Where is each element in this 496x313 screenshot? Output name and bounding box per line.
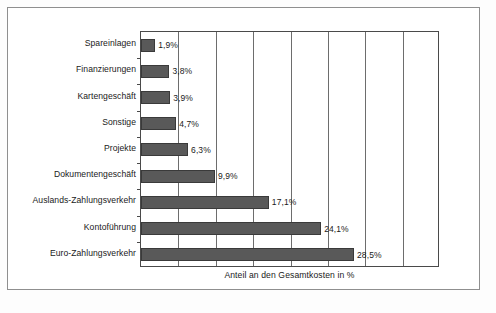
bar-row: 6,3% (141, 137, 438, 163)
bar-value-label: 28,5% (357, 250, 382, 260)
bar (141, 39, 155, 52)
bar-row: 3,9% (141, 84, 438, 110)
x-axis-title: Anteil an den Gesamtkosten in % (140, 270, 439, 280)
category-label: Finanzierungen (4, 64, 136, 74)
bar (141, 143, 188, 156)
bar-value-label: 3,8% (172, 66, 192, 76)
bar-row: 4,7% (141, 111, 438, 137)
category-label: Projekte (4, 143, 136, 153)
bar (141, 65, 169, 78)
bar (141, 91, 170, 104)
bar-value-label: 3,9% (173, 93, 193, 103)
plot-area: 1,9%3,8%3,9%4,7%6,3%9,9%17,1%24,1%28,5% (140, 31, 439, 267)
category-label: Sonstige (4, 117, 136, 127)
category-axis-labels: SpareinlagenFinanzierungenKartengeschäft… (0, 31, 136, 267)
bar-row: 9,9% (141, 163, 438, 189)
bar-row: 17,1% (141, 189, 438, 215)
bar (141, 248, 354, 261)
bar (141, 117, 176, 130)
category-label: Euro-Zahlungsverkehr (4, 248, 136, 258)
bar-row: 24,1% (141, 216, 438, 242)
bar-value-label: 4,7% (179, 119, 199, 129)
bar (141, 222, 321, 235)
category-label: Dokumentengeschäft (4, 169, 136, 179)
category-label: Kontoführung (4, 222, 136, 232)
category-label: Kartengeschäft (4, 91, 136, 101)
bar-row: 1,9% (141, 32, 438, 58)
bar-value-label: 17,1% (272, 197, 297, 207)
bar-row: 3,8% (141, 58, 438, 84)
category-label: Spareinlagen (4, 38, 136, 48)
bar (141, 196, 269, 209)
bar-rows: 1,9%3,8%3,9%4,7%6,3%9,9%17,1%24,1%28,5% (141, 32, 438, 266)
bar-value-label: 9,9% (218, 171, 238, 181)
bar-row: 28,5% (141, 242, 438, 268)
category-label: Auslands-Zahlungsverkehr (4, 195, 136, 205)
bar-value-label: 1,9% (158, 40, 178, 50)
bar-value-label: 6,3% (191, 145, 211, 155)
bar (141, 170, 215, 183)
bar-value-label: 24,1% (324, 224, 349, 234)
bar-chart-figure: SpareinlagenFinanzierungenKartengeschäft… (0, 0, 496, 313)
